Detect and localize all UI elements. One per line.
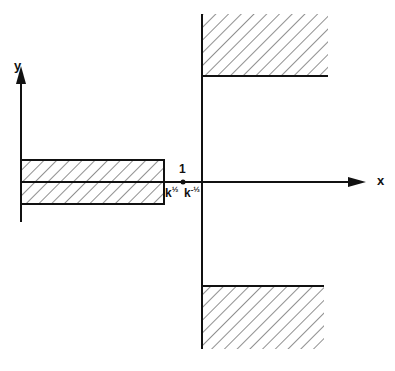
- k-neg-half-base: k: [184, 186, 191, 200]
- point-one-marker: [181, 180, 186, 185]
- lower-hatched-region: [202, 286, 324, 349]
- k-half-exponent: ½: [172, 185, 179, 194]
- point-one-label: 1: [179, 162, 186, 176]
- k-half-base: k: [165, 186, 172, 200]
- x-axis-arrow-icon: [348, 177, 366, 187]
- k-neg-half-label: k-½: [184, 185, 200, 200]
- k-half-label: k½: [165, 185, 178, 200]
- x-axis-label: x: [377, 173, 384, 188]
- y-axis-label: y: [14, 58, 21, 73]
- k-neg-half-exponent: -½: [191, 185, 200, 194]
- upper-hatched-region: [202, 14, 328, 76]
